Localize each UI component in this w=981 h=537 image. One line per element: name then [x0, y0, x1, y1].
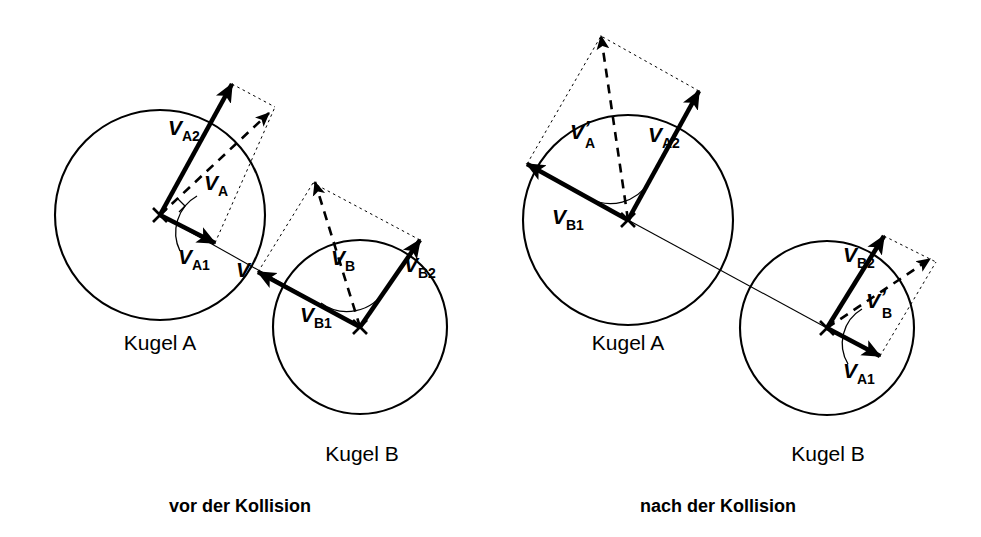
contact-point-label-before: V [236, 258, 252, 281]
ball-b-name-after: Kugel B [791, 442, 865, 465]
vector-v-a1-before [160, 215, 215, 243]
panel-before: V A2 V A1 V A V B1 V B2 V B [55, 84, 447, 516]
ball-a-name-after: Kugel A [592, 331, 664, 354]
label-v-b-prime-after: V ’ B [866, 285, 892, 321]
label-v-a2-before: V A2 [168, 116, 200, 144]
label-v-a-before: V A [204, 171, 228, 199]
label-v-b1-sub: B1 [314, 315, 332, 331]
line-of-centers-after [628, 220, 827, 328]
vector-v-a-prime-after [601, 36, 628, 220]
label-v-b-before: V B [331, 246, 355, 274]
vector-v-a2-after [628, 91, 699, 220]
label-v-b1-sub-after: B1 [566, 217, 584, 233]
ball-b-name-before: Kugel B [325, 442, 399, 465]
label-v-b2-sub-after: B2 [857, 255, 875, 271]
label-v-b-sub: B [345, 258, 355, 274]
label-v-b2-before: V B2 [404, 253, 436, 281]
vector-v-a1-after [827, 328, 880, 356]
panel-after: V ’ A V A2 V B1 V B2 V A1 V [523, 36, 936, 516]
ball-a-parallelogram-before [215, 84, 275, 243]
label-v-a2-sub-after: A2 [662, 135, 680, 151]
label-v-b-prime-sub: B [882, 305, 892, 321]
ball-a-name-before: Kugel A [124, 331, 196, 354]
caption-before: vor der Kollision [169, 496, 311, 516]
label-v-a1-sub-after: A1 [857, 371, 875, 387]
label-v-a1-before: V A1 [178, 245, 210, 273]
label-v-b2-sub: B2 [418, 265, 436, 281]
label-v-a-prime-sub: A [585, 135, 595, 151]
physics-collision-figure: V A2 V A1 V A V B1 V B2 V B [0, 0, 981, 537]
ball-a-right-angle-tick-before [178, 199, 185, 212]
label-v-b1-after: V B1 [552, 205, 584, 233]
caption-after: nach der Kollision [640, 496, 796, 516]
label-v-a1-sub: A1 [192, 257, 210, 273]
label-v-a1-after: V A1 [843, 359, 875, 387]
collision-diagram-svg: V A2 V A1 V A V B1 V B2 V B [0, 0, 981, 537]
vector-v-b1-after [527, 164, 628, 220]
label-v-a-sub: A [218, 183, 228, 199]
label-v-a2-sub: A2 [182, 128, 200, 144]
